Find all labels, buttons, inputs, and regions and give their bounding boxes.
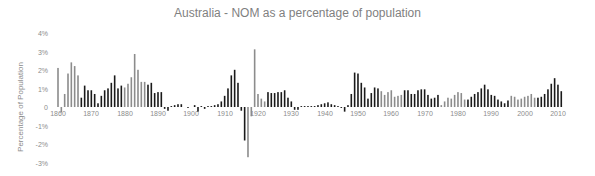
bar-1957	[381, 91, 383, 107]
bar-1905	[207, 106, 209, 107]
bar-1883	[134, 54, 136, 107]
bar-1868	[84, 86, 86, 107]
bar-1961	[394, 97, 396, 107]
bar-1897	[181, 104, 183, 107]
bar-1990	[490, 95, 492, 107]
bar-1966	[411, 94, 413, 107]
bar-1863	[67, 74, 69, 107]
bar-1870	[91, 90, 93, 107]
bar-1994	[504, 103, 506, 107]
bar-1921	[261, 99, 263, 107]
bar-1865	[74, 66, 76, 107]
bar-1874	[104, 90, 106, 107]
bar-1944	[337, 106, 339, 107]
bar-1941	[327, 102, 329, 107]
bar-1950	[357, 74, 359, 107]
bar-1926	[277, 92, 279, 107]
bar-2011	[560, 91, 562, 107]
bar-1928	[284, 90, 286, 107]
bar-1871	[94, 94, 96, 107]
bar-1952	[364, 87, 366, 107]
bar-plot-area	[0, 0, 595, 176]
bar-1965	[407, 90, 409, 107]
bar-1860	[57, 68, 59, 107]
bar-1985	[474, 94, 476, 107]
bar-1963	[401, 95, 403, 107]
bar-1936	[311, 106, 313, 107]
bar-1913	[234, 70, 236, 107]
bar-1989	[487, 89, 489, 107]
bar-1895	[174, 105, 176, 107]
bar-1953	[367, 99, 369, 107]
bar-1980	[457, 92, 459, 107]
bar-1899	[187, 107, 189, 108]
bar-1908	[217, 104, 219, 107]
bar-1918	[251, 107, 253, 116]
bar-1878	[117, 88, 119, 107]
bar-1920	[257, 94, 259, 107]
bar-1911	[227, 88, 229, 107]
bar-1866	[77, 75, 79, 107]
bar-1861	[61, 107, 63, 113]
bar-1986	[477, 92, 479, 107]
bar-2001	[527, 96, 529, 107]
bar-1988	[484, 85, 486, 107]
bar-1983	[467, 100, 469, 107]
bar-1981	[460, 93, 462, 107]
bar-1869	[87, 90, 89, 107]
bar-1873	[101, 96, 103, 107]
bar-1915	[241, 107, 243, 111]
bar-1929	[287, 98, 289, 107]
bar-2003	[534, 98, 536, 107]
bar-1904	[204, 107, 206, 109]
bar-1942	[331, 104, 333, 107]
bar-1922	[264, 101, 266, 107]
bar-1949	[354, 73, 356, 107]
bar-1934	[304, 106, 306, 107]
bar-1894	[171, 106, 173, 107]
bar-1964	[404, 90, 406, 107]
bar-2005	[540, 97, 542, 107]
bar-1907	[214, 105, 216, 107]
bar-1987	[480, 88, 482, 107]
bar-2000	[524, 97, 526, 107]
bar-1995	[507, 100, 509, 107]
bar-2006	[544, 94, 546, 107]
bar-1967	[414, 94, 416, 107]
bar-1962	[397, 96, 399, 107]
bar-1901	[194, 105, 196, 107]
bar-1969	[421, 89, 423, 107]
bar-1959	[387, 92, 389, 107]
bar-1956	[377, 88, 379, 107]
bar-1890	[157, 92, 159, 107]
bar-1951	[361, 83, 363, 107]
bar-1955	[374, 87, 376, 107]
bar-1943	[334, 105, 336, 107]
bar-1888	[151, 83, 153, 107]
bar-1902	[197, 107, 199, 112]
bar-2008	[550, 84, 552, 107]
bar-1914	[237, 83, 239, 107]
bar-1927	[281, 92, 283, 107]
bar-1999	[520, 99, 522, 107]
bar-1877	[114, 75, 116, 107]
bar-1906	[211, 106, 213, 107]
bar-1875	[107, 88, 109, 107]
bar-2002	[530, 94, 532, 107]
bar-1909	[221, 101, 223, 107]
bar-1971	[427, 95, 429, 107]
bar-1923	[267, 92, 269, 107]
bar-1947	[347, 105, 349, 107]
bar-1938	[317, 105, 319, 107]
bar-1978	[450, 99, 452, 107]
bar-1893	[167, 107, 169, 111]
bar-1879	[121, 86, 123, 107]
bar-1932	[297, 107, 299, 110]
bar-1882	[131, 77, 133, 107]
bar-1916	[244, 107, 246, 140]
bar-1945	[341, 107, 343, 108]
bar-2009	[554, 78, 556, 107]
bar-1976	[444, 101, 446, 107]
bar-1991	[494, 96, 496, 107]
bar-1970	[424, 89, 426, 107]
